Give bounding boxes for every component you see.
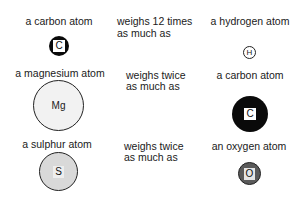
carbon-symbol: C [244, 108, 255, 120]
oxygen-atom-icon: O [238, 162, 261, 185]
oxygen-atom-label: an oxygen atom [212, 141, 287, 152]
hydrogen-atom-label: a hydrogen atom [211, 16, 290, 27]
magnesium-atom-label: a magnesium atom [15, 68, 104, 79]
magnesium-symbol: Mg [50, 100, 68, 112]
carbon-atom-label: a carbon atom [25, 16, 92, 27]
relation-line2: as much as [117, 28, 171, 39]
magnesium-atom-icon: Mg [33, 80, 84, 131]
carbon-atom-icon: C [49, 36, 69, 56]
carbon-atom-icon-large: C [232, 96, 268, 132]
hydrogen-symbol: H [247, 48, 253, 58]
relation-line2: as much as [126, 81, 180, 92]
oxygen-symbol: O [244, 168, 256, 180]
hydrogen-atom-icon: H [243, 46, 256, 59]
sulphur-atom-label: a sulphur atom [22, 139, 91, 150]
carbon-atom-label-right: a carbon atom [216, 70, 283, 81]
sulphur-symbol: S [53, 166, 64, 178]
relation-line2: as much as [124, 152, 178, 163]
relation-line1: weighs 12 times [117, 16, 192, 27]
sulphur-atom-icon: S [39, 152, 78, 191]
carbon-symbol: C [53, 40, 64, 52]
